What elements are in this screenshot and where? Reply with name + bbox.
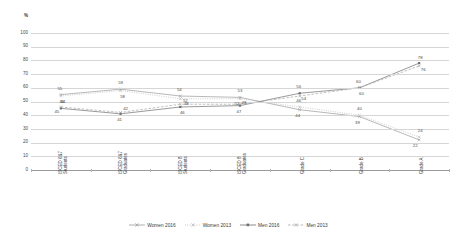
data-label: 55: [57, 86, 62, 90]
legend-marker-icon: [129, 222, 145, 228]
data-label: 47: [237, 109, 242, 113]
data-label: 41: [117, 118, 122, 122]
x-axis-label-7: Grade A: [419, 157, 424, 174]
x-axis-tick-mark: [31, 169, 32, 172]
y-axis-tick-label: 70: [6, 72, 28, 77]
data-label: 53: [238, 89, 243, 93]
data-label: 60: [356, 80, 361, 84]
y-axis-tick-label: 30: [6, 127, 28, 132]
y-axis-tick-label: 50: [6, 99, 28, 104]
data-label: 44: [295, 114, 300, 118]
gridline: [31, 129, 449, 130]
x-axis-label-2: ISCED 6&7Graduates: [118, 151, 128, 174]
x-axis-tick-mark: [389, 169, 390, 172]
x-axis-tick-mark: [210, 169, 211, 172]
data-label: 48: [242, 101, 247, 105]
legend-item-1[interactable]: Women 2016: [129, 222, 175, 228]
x-axis-label-1: ISCED 6&7Students: [58, 151, 68, 174]
y-axis-tick-label: 0: [6, 168, 28, 173]
chart-plot-area: [0, 0, 457, 242]
data-label: 76: [421, 68, 426, 72]
x-axis-tick-mark: [150, 169, 151, 172]
gridline: [31, 47, 449, 48]
gridline: [31, 33, 449, 34]
data-label: 46: [180, 111, 185, 115]
data-label: 39: [355, 120, 360, 124]
legend-marker-icon: [185, 222, 201, 228]
line-chart: % 1009080706050403020100 ISCED 6&7Studen…: [0, 0, 457, 242]
y-axis-tick-label: 80: [6, 58, 28, 63]
data-label: 24: [418, 129, 423, 133]
gridline: [31, 143, 449, 144]
y-axis-tick-label: 90: [6, 44, 28, 49]
chart-legend: Women 2016Women 2013Men 2016Men 2013: [0, 222, 457, 228]
x-axis-label-6: Grade B: [359, 157, 364, 174]
legend-item-2[interactable]: Women 2013: [185, 222, 231, 228]
y-axis-tick-label: 100: [6, 31, 28, 36]
legend-item-4[interactable]: Men 2013: [288, 222, 327, 228]
data-point-marker: [418, 136, 421, 139]
data-label: 56: [296, 85, 301, 89]
legend-label: Men 2013: [306, 223, 327, 228]
x-axis-tick-mark: [91, 169, 92, 172]
data-label: 52: [235, 102, 240, 106]
legend-marker-icon: [288, 222, 304, 228]
data-point-marker: [179, 106, 181, 108]
data-label: 46: [59, 100, 64, 104]
legend-label: Women 2013: [203, 223, 231, 228]
legend-label: Women 2016: [147, 223, 175, 228]
data-point-marker: [418, 62, 420, 64]
data-point-marker: [418, 138, 421, 141]
data-point-marker: [179, 97, 182, 100]
x-axis-tick-mark: [270, 169, 271, 172]
y-axis-tick-label: 40: [6, 113, 28, 118]
x-axis-label-3: ISCED 8Students: [178, 156, 188, 174]
gridline: [31, 102, 449, 103]
data-label: 54: [301, 97, 306, 101]
y-axis-tick-label: 60: [6, 85, 28, 90]
gridline: [31, 115, 449, 116]
gridline: [31, 60, 449, 61]
data-label: 54: [177, 88, 182, 92]
data-point-marker: [299, 92, 301, 94]
legend-marker-icon: [240, 222, 256, 228]
data-label: 45: [54, 110, 59, 114]
x-axis-tick-mark: [449, 169, 450, 172]
legend-item-3[interactable]: Men 2016: [240, 222, 279, 228]
legend-label: Men 2016: [258, 223, 279, 228]
data-label: 78: [418, 56, 423, 60]
data-label: 22: [413, 144, 418, 148]
x-axis-label-5: Grade C: [300, 157, 305, 174]
y-axis-tick-label: 20: [6, 140, 28, 145]
x-axis-tick-mark: [330, 169, 331, 172]
x-axis-label-4: ISCED 8Graduates: [237, 153, 247, 174]
data-label: 48: [184, 102, 189, 106]
gridline: [31, 74, 449, 75]
data-label: 59: [118, 81, 123, 85]
data-label: 42: [123, 107, 128, 111]
data-label: 40: [357, 107, 362, 111]
y-axis-tick-label: 10: [6, 154, 28, 159]
data-label: 60: [359, 92, 364, 96]
data-label: 58: [120, 94, 125, 98]
